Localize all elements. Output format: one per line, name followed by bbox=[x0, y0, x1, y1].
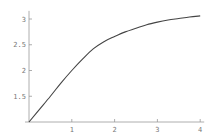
chart-canvas: 12341.522.53 bbox=[0, 0, 216, 136]
x-tick-label: 3 bbox=[155, 126, 159, 134]
x-tick-label: 1 bbox=[70, 126, 74, 134]
y-tick-label: 2.5 bbox=[13, 41, 26, 49]
axes bbox=[25, 11, 204, 122]
y-tick-label: 1.5 bbox=[13, 93, 26, 101]
data-line bbox=[29, 16, 200, 122]
tick-labels: 12341.522.53 bbox=[13, 16, 202, 135]
y-tick-label: 2 bbox=[22, 67, 26, 75]
x-tick-label: 4 bbox=[198, 126, 202, 134]
line-chart: 12341.522.53 bbox=[0, 0, 216, 136]
x-tick-label: 2 bbox=[112, 126, 116, 134]
y-tick-label: 3 bbox=[22, 16, 26, 24]
